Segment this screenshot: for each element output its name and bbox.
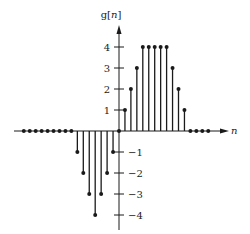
y-axis-label: g[n] xyxy=(101,9,122,20)
stem-marker xyxy=(34,129,38,133)
stem-marker xyxy=(165,45,169,49)
y-tick-label: 2 xyxy=(104,84,110,95)
stem-marker xyxy=(81,171,85,175)
y-tick-label: 4 xyxy=(104,42,110,53)
stem-marker xyxy=(99,192,103,196)
stem-marker xyxy=(75,150,79,154)
axes: 4321−1−2−3−4 xyxy=(14,25,229,230)
stem-marker xyxy=(206,129,210,133)
stem-marker xyxy=(111,150,115,154)
stem-marker xyxy=(129,87,133,91)
stem-marker xyxy=(182,108,186,112)
stem-marker xyxy=(194,129,198,133)
stem-marker xyxy=(188,129,192,133)
y-tick-label: 1 xyxy=(104,105,110,116)
stem-marker xyxy=(46,129,50,133)
stem-marker xyxy=(40,129,44,133)
stem-marker xyxy=(52,129,56,133)
stem-marker xyxy=(177,87,181,91)
y-tick-label: −4 xyxy=(128,210,143,221)
stem-marker xyxy=(147,45,151,49)
stem-marker xyxy=(117,129,121,133)
stem-marker xyxy=(63,129,67,133)
stem-marker xyxy=(141,45,145,49)
stem-marker xyxy=(93,213,97,217)
x-axis-label: n xyxy=(231,125,237,136)
stem-marker xyxy=(58,129,62,133)
stem-marker xyxy=(153,45,157,49)
x-axis-arrow-icon xyxy=(220,129,229,134)
y-tick-label: −3 xyxy=(128,189,143,200)
stem-marker xyxy=(159,45,163,49)
stem-marker xyxy=(171,66,175,70)
stem-marker xyxy=(105,171,109,175)
stem-marker xyxy=(28,129,32,133)
stem-marker xyxy=(135,66,139,70)
y-tick-label: −1 xyxy=(128,147,143,158)
stem-marker xyxy=(69,129,73,133)
stem-marker xyxy=(123,108,127,112)
y-axis-arrow-icon xyxy=(117,25,122,34)
stem-marker xyxy=(87,192,91,196)
stem-marker xyxy=(200,129,204,133)
y-tick-label: 3 xyxy=(104,63,110,74)
stem-plot: 4321−1−2−3−4 g[n] n xyxy=(0,0,250,234)
stem-marker xyxy=(22,129,26,133)
y-tick-label: −2 xyxy=(128,168,143,179)
